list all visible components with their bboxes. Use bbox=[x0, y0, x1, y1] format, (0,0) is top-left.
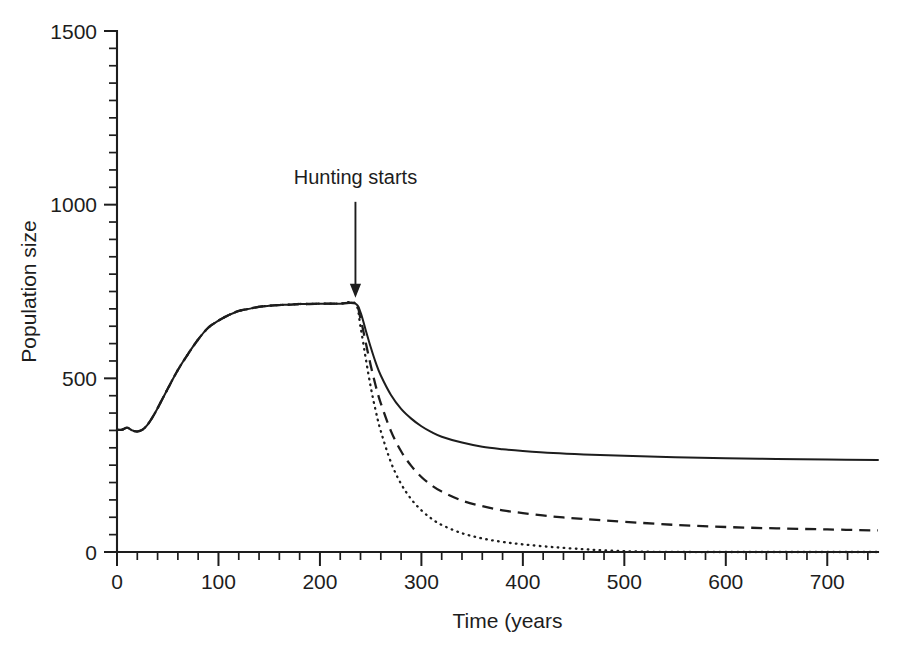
series-line-low-hunting-pressure bbox=[117, 303, 878, 460]
annotations: Hunting starts bbox=[294, 166, 417, 298]
y-tick-label: 0 bbox=[85, 541, 97, 564]
population-line-chart: Hunting starts 0500100015000100200300400… bbox=[0, 0, 903, 659]
axis-labels: 0500100015000100200300400500600700Time (… bbox=[17, 20, 845, 633]
y-tick-label: 500 bbox=[62, 367, 97, 390]
series-line-high-hunting-pressure bbox=[117, 302, 878, 552]
y-tick-label: 1500 bbox=[50, 20, 97, 43]
annotation-label-hunting-starts: Hunting starts bbox=[294, 166, 417, 188]
x-tick-label: 0 bbox=[111, 570, 123, 593]
x-tick-label: 600 bbox=[708, 570, 743, 593]
x-tick-label: 100 bbox=[201, 570, 236, 593]
annotation-arrow-head bbox=[350, 284, 361, 298]
x-tick-label: 500 bbox=[607, 570, 642, 593]
y-tick-label: 1000 bbox=[50, 193, 97, 216]
x-tick-label: 200 bbox=[302, 570, 337, 593]
chart-figure: Hunting starts 0500100015000100200300400… bbox=[0, 0, 903, 659]
data-series bbox=[117, 302, 878, 552]
y-axis-title: Population size bbox=[17, 220, 40, 362]
x-tick-label: 700 bbox=[810, 570, 845, 593]
axes bbox=[104, 31, 878, 566]
x-tick-label: 400 bbox=[505, 570, 540, 593]
series-line-medium-hunting-pressure bbox=[117, 303, 878, 531]
x-axis-title: Time (years bbox=[452, 609, 562, 632]
x-tick-label: 300 bbox=[404, 570, 439, 593]
